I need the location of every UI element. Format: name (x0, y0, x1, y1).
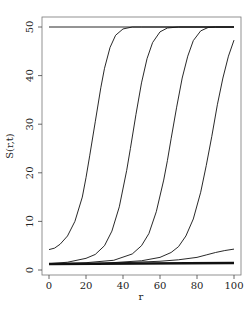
plot-frame (42, 17, 241, 275)
y-tick-label: 30 (24, 118, 35, 131)
plot-area (49, 27, 234, 264)
x-tick-label: 100 (224, 280, 243, 291)
x-tick-label: 60 (154, 280, 167, 291)
y-tick-label: 0 (24, 267, 35, 273)
x-tick-label: 0 (46, 280, 52, 291)
series-baseline (49, 263, 234, 264)
y-tick-label: 40 (24, 69, 35, 82)
x-axis-label: r (139, 291, 144, 302)
x-tick-label: 40 (117, 280, 130, 291)
x-tick-label: 80 (191, 280, 204, 291)
series-curve-1 (49, 27, 234, 250)
chart: 01020304050 020406080100 r S(r,t) (0, 0, 252, 311)
series-curve-3 (49, 27, 234, 264)
y-tick-label: 50 (24, 21, 35, 34)
x-axis: 020406080100 (46, 275, 244, 291)
series-curve-4 (49, 40, 234, 264)
y-axis: 01020304050 (24, 21, 42, 274)
y-tick-label: 20 (24, 166, 35, 179)
y-tick-label: 10 (24, 215, 35, 228)
y-axis-label: S(r,t) (4, 133, 15, 159)
x-tick-label: 20 (80, 280, 93, 291)
series-curve-2 (49, 27, 234, 264)
